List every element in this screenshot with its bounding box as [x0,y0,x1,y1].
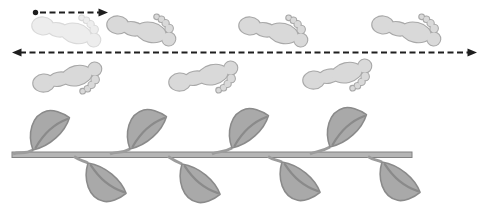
footprint-bottom-row-2 [168,61,239,97]
leaf-upper-2 [118,102,167,157]
full-span-arrow [12,49,477,57]
footprint-top-row-1 [31,11,102,47]
right-arrowhead-icon [99,9,109,17]
leaf-vine [12,100,421,205]
leaf-blade [118,102,167,157]
footsteps-vine-illustration [0,0,487,205]
pace-arrow [33,9,108,17]
footprint-top-row-2 [106,10,177,46]
illustration-canvas [0,0,487,205]
leaf-blade [21,103,70,158]
footprint-bottom-row-1 [32,62,103,98]
leaf-upper-1 [21,103,70,158]
arrow-start-dot [33,10,38,15]
left-arrowhead-icon [12,49,22,57]
right-arrowhead-icon [468,49,478,57]
footprint-top-row-3 [238,11,309,47]
leaf-upper-4 [318,100,367,155]
footprint-bottom-row-3 [302,59,373,95]
footprint-top-row-4 [371,10,442,46]
leaf-blade [318,100,367,155]
leaf-upper-3 [220,101,269,156]
leaf-blade [220,101,269,156]
